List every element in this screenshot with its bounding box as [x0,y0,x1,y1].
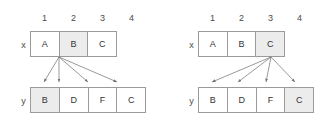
column-number: 3 [88,11,117,25]
row-label-x: x [187,40,196,50]
y-cell[interactable]: C [284,87,314,113]
x-cell[interactable]: B [227,31,257,57]
column-number-row-left: 1 2 3 4 [30,11,146,25]
y-cell[interactable]: F [88,87,118,113]
y-row-right: B D F C [198,87,314,113]
column-number: 4 [285,11,314,25]
x-cell[interactable]: A [198,31,228,57]
column-number: 1 [198,11,227,25]
row-label-y: y [19,96,28,106]
column-number: 2 [227,11,256,25]
arrow-to-y-cell-1 [44,57,59,82]
arrow-to-y-cell-3 [266,57,271,82]
y-cell[interactable]: F [256,87,286,113]
column-number: 1 [30,11,59,25]
arrow-to-y-cell-4 [59,57,117,82]
column-number: 2 [59,11,88,25]
y-cell[interactable]: C [116,87,146,113]
x-row-left: A B C [30,31,117,57]
x-row-right: A B C [198,31,285,57]
x-cell[interactable]: C [255,31,285,57]
arrow-to-y-cell-4 [271,57,295,82]
y-cell[interactable]: D [227,87,257,113]
y-cell[interactable]: D [59,87,89,113]
arrow-to-y-cell-3 [59,57,88,82]
y-row-left: B D F C [30,87,146,113]
row-label-y: y [187,96,196,106]
diagram-left: 1 2 3 4 x y A B C B D F C [0,0,168,124]
x-cell[interactable]: A [30,31,60,57]
diagram-right: 1 2 3 4 x y A B C B D F C [168,0,336,124]
column-number: 4 [117,11,146,25]
arrow-to-y-cell-1 [212,57,271,82]
x-cell[interactable]: C [87,31,117,57]
y-cell[interactable]: B [198,87,228,113]
row-label-x: x [19,40,28,50]
column-number-row-right: 1 2 3 4 [198,11,314,25]
arrow-to-y-cell-2 [238,57,271,82]
x-cell[interactable]: B [59,31,89,57]
column-number: 3 [256,11,285,25]
y-cell[interactable]: B [30,87,60,113]
diagram-canvas: 1 2 3 4 x y A B C B D F C [0,0,336,124]
